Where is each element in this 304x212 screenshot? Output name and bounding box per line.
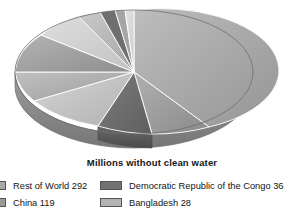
legend-swatch-icon: [0, 198, 6, 207]
legend-item[interactable]: Bangladesh 28: [100, 195, 284, 210]
legend-swatch-icon: [100, 181, 122, 190]
legend-item[interactable]: Rest of World 292: [0, 178, 87, 193]
pie-slices: [15, 9, 279, 135]
legend-column-left: Rest of World 292 China 119: [0, 178, 87, 212]
legend-column-right: Democratic Republic of the Congo 36 Bang…: [100, 178, 284, 212]
chart-legend: Rest of World 292 China 119 Democratic R…: [0, 178, 304, 212]
pie-chart-figure: Millions without clean water Rest of Wor…: [0, 0, 304, 212]
legend-item[interactable]: China 119: [0, 195, 87, 210]
legend-item-label: Rest of World 292: [13, 180, 87, 192]
legend-item[interactable]: Democratic Republic of the Congo 36: [100, 178, 284, 193]
legend-swatch-icon: [0, 181, 6, 190]
pie-chart-graphic: [0, 0, 304, 155]
legend-swatch-icon: [100, 198, 122, 207]
chart-plot-area: [0, 0, 304, 155]
legend-item-label: Democratic Republic of the Congo 36: [129, 180, 284, 192]
legend-item-label: Bangladesh 28: [129, 197, 191, 209]
legend-item-label: China 119: [13, 197, 55, 209]
chart-title: Millions without clean water: [0, 157, 304, 168]
